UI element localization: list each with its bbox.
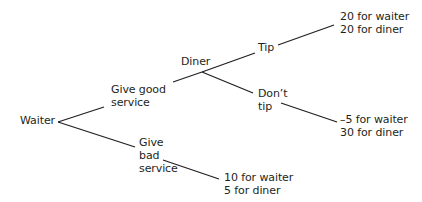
branch-bad-service: Give bad service — [139, 136, 178, 175]
branch-tip: Tip — [258, 41, 274, 54]
payoff-tip: 20 for waiter 20 for diner — [340, 10, 409, 36]
branch-good-line1: Give good — [111, 83, 166, 96]
payoff-tip-waiter: 20 for waiter — [340, 10, 409, 23]
edge-waiter-bad — [58, 122, 135, 147]
payoff-bad-waiter: 10 for waiter — [224, 171, 293, 184]
edge-donttip-payoff — [281, 103, 337, 122]
node-waiter: Waiter — [20, 114, 55, 127]
payoff-dont-tip: –5 for waiter 30 for diner — [340, 113, 408, 139]
branch-bad-line2: bad — [139, 149, 178, 162]
node-diner: Diner — [181, 55, 210, 68]
branch-dont-tip: Don’t tip — [258, 87, 287, 113]
branch-bad-line3: service — [139, 162, 178, 175]
edge-good-diner — [173, 72, 202, 82]
payoff-bad-diner: 5 for diner — [224, 184, 293, 197]
branch-donttip-line1: Don’t — [258, 87, 287, 100]
branch-good-service: Give good service — [111, 83, 166, 109]
branch-donttip-line2: tip — [258, 100, 287, 113]
edge-waiter-good — [58, 107, 104, 122]
payoff-tip-diner: 20 for diner — [340, 23, 409, 36]
branch-bad-line1: Give — [139, 136, 178, 149]
payoff-donttip-waiter: –5 for waiter — [340, 113, 408, 126]
edge-tip-payoff — [278, 25, 334, 45]
payoff-bad-service: 10 for waiter 5 for diner — [224, 171, 293, 197]
branch-good-line2: service — [111, 96, 166, 109]
payoff-donttip-diner: 30 for diner — [340, 126, 408, 139]
edge-diner-donttip — [202, 72, 253, 93]
